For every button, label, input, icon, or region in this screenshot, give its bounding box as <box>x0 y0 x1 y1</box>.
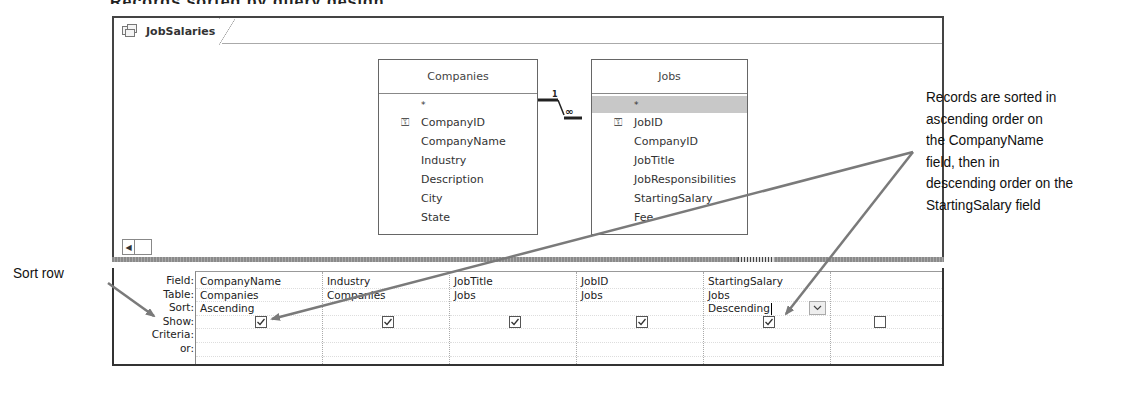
table-cell[interactable]: Jobs <box>450 289 576 303</box>
horizontal-scrollbar[interactable]: ◀ <box>122 239 152 255</box>
callout-line: ascending order on <box>926 108 1145 130</box>
criteria-cell[interactable] <box>323 329 449 343</box>
grid-column-empty <box>831 272 942 364</box>
sort-cell[interactable] <box>577 302 703 316</box>
grid-columns: CompanyName Companies Ascending Industry… <box>195 271 942 364</box>
row-label-criteria: Criteria: <box>114 328 194 342</box>
splitter-grip[interactable] <box>738 257 774 262</box>
field-list-item[interactable]: ⚿CompanyID <box>379 113 537 132</box>
primary-key-icon: ⚿ <box>401 116 409 129</box>
field-list-title[interactable]: Companies <box>379 60 537 94</box>
or-cell[interactable] <box>323 343 449 357</box>
or-cell[interactable] <box>704 343 830 357</box>
grid-column: CompanyName Companies Ascending <box>196 272 323 364</box>
field-list-item[interactable]: CompanyID <box>592 132 747 151</box>
table-cell[interactable]: Companies <box>196 289 322 303</box>
sort-cell[interactable] <box>831 302 942 316</box>
scroll-left-arrow-icon[interactable]: ◀ <box>123 240 135 254</box>
grid-column: JobID Jobs <box>577 272 704 364</box>
field-list-item[interactable]: ⚿JobID <box>592 113 747 132</box>
row-label-sort: Sort: <box>114 301 194 315</box>
field-list-item[interactable]: Description <box>379 170 537 189</box>
field-list-item-selected[interactable]: * <box>592 96 747 113</box>
criteria-cell[interactable] <box>577 329 703 343</box>
query-design-grid: Field: Table: Sort: Show: Criteria: or: … <box>112 268 944 366</box>
field-list-item[interactable]: JobTitle <box>592 151 747 170</box>
field-list-title[interactable]: Jobs <box>592 60 747 94</box>
field-name: Description <box>421 173 484 186</box>
field-name: City <box>421 192 443 205</box>
field-cell[interactable]: Industry <box>323 275 449 289</box>
field-list-item[interactable]: Industry <box>379 151 537 170</box>
field-cell[interactable] <box>831 275 942 289</box>
field-cell[interactable]: JobID <box>577 275 703 289</box>
tab-jobsalaries[interactable]: JobSalaries <box>116 18 222 44</box>
show-checkbox-unchecked[interactable] <box>874 316 886 328</box>
field-name: * <box>421 100 426 110</box>
criteria-cell[interactable] <box>450 329 576 343</box>
sort-dropdown-button[interactable] <box>809 301 826 315</box>
checkmark-icon <box>256 317 266 327</box>
field-list-item[interactable]: CompanyName <box>379 132 537 151</box>
criteria-cell[interactable] <box>831 329 942 343</box>
field-cell[interactable]: JobTitle <box>450 275 576 289</box>
field-list-item[interactable]: City <box>379 189 537 208</box>
field-list-item[interactable]: Fee <box>592 208 747 227</box>
show-cell <box>577 316 703 330</box>
or-cell[interactable] <box>831 343 942 357</box>
chevron-down-icon <box>813 305 822 311</box>
table-cell[interactable]: Jobs <box>577 289 703 303</box>
table-design-area: Companies * ⚿CompanyID CompanyName Indus… <box>114 44 942 257</box>
field-list-item[interactable]: JobResponsibilities <box>592 170 747 189</box>
checkmark-icon <box>510 317 520 327</box>
criteria-cell[interactable] <box>704 329 830 343</box>
field-cell[interactable]: CompanyName <box>196 275 322 289</box>
show-cell <box>831 316 942 330</box>
field-list-item[interactable]: * <box>379 96 537 113</box>
sort-value: Descending <box>708 302 770 314</box>
sort-cell[interactable]: Ascending <box>196 302 322 316</box>
scroll-track[interactable] <box>135 240 151 254</box>
relationship-line[interactable]: 1 ∞ <box>538 88 594 122</box>
show-cell <box>450 316 576 330</box>
show-checkbox[interactable] <box>509 316 521 328</box>
table-cell[interactable] <box>831 289 942 303</box>
sort-cell[interactable]: Descending <box>704 302 830 316</box>
show-cell <box>323 316 449 330</box>
field-name: * <box>634 100 639 110</box>
field-list-item[interactable]: StartingSalary <box>592 189 747 208</box>
field-list-item[interactable]: State <box>379 208 537 227</box>
query-icon <box>122 24 138 38</box>
or-cell[interactable] <box>450 343 576 357</box>
row-label-show: Show: <box>114 315 194 329</box>
sort-cell[interactable] <box>450 302 576 316</box>
grid-column: Industry Companies <box>323 272 450 364</box>
or-cell[interactable] <box>577 343 703 357</box>
row-label-or: or: <box>114 342 194 356</box>
table-cell[interactable]: Companies <box>323 289 449 303</box>
show-checkbox[interactable] <box>382 316 394 328</box>
row-label-table: Table: <box>114 288 194 302</box>
field-name: Fee <box>634 211 653 224</box>
field-name: State <box>421 211 450 224</box>
callout-line: field, then in <box>926 151 1145 173</box>
one-side-label: 1 <box>552 90 558 99</box>
field-list-jobs[interactable]: Jobs * ⚿JobID CompanyID JobTitle JobResp… <box>591 59 748 235</box>
table-cell[interactable]: Jobs <box>704 289 830 303</box>
field-name: CompanyID <box>421 116 485 129</box>
grid-column: StartingSalary Jobs Descending <box>704 272 831 364</box>
or-cell[interactable] <box>196 343 322 357</box>
field-list-companies[interactable]: Companies * ⚿CompanyID CompanyName Indus… <box>378 59 538 235</box>
callout-line: StartingSalary field <box>926 194 1145 216</box>
show-checkbox[interactable] <box>255 316 267 328</box>
callout-line: Records are sorted in <box>926 86 1145 108</box>
criteria-cell[interactable] <box>196 329 322 343</box>
field-cell[interactable]: StartingSalary <box>704 275 830 289</box>
field-name: Industry <box>421 154 466 167</box>
pane-splitter[interactable] <box>112 257 944 262</box>
show-checkbox[interactable] <box>636 316 648 328</box>
show-checkbox[interactable] <box>763 316 775 328</box>
field-name: JobTitle <box>634 154 675 167</box>
sort-cell[interactable] <box>323 302 449 316</box>
callout-line: descending order on the <box>926 172 1145 194</box>
